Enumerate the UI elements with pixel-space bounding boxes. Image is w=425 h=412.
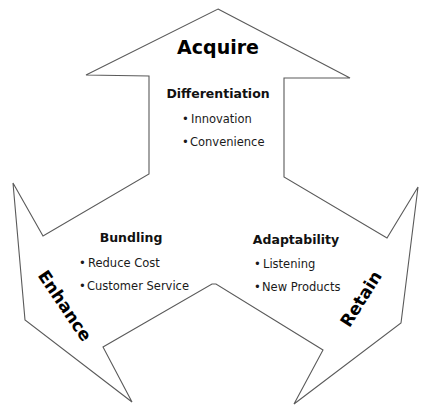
section-title-adaptability: Adaptability [253, 232, 339, 247]
bullet-glyph: • [182, 112, 189, 126]
section-title-differentiation: Differentiation [166, 86, 269, 101]
bullet-glyph: • [79, 256, 86, 270]
three-arrow-outline [13, 9, 418, 404]
section-title-bundling: Bundling [100, 230, 163, 245]
bullet-glyph: • [79, 279, 86, 293]
bullet-item-new-products: New Products [262, 280, 340, 294]
arrow-label-acquire: Acquire [177, 36, 259, 58]
bullet-item-reduce-cost: Reduce Cost [88, 256, 160, 270]
bullet-glyph: • [254, 280, 261, 294]
bullet-item-innovation: Innovation [191, 112, 252, 126]
bullet-item-convenience: Convenience [190, 135, 264, 149]
bullet-glyph: • [182, 135, 189, 149]
three-arrow-diagram: Acquire Differentiation • Innovation • C… [0, 0, 425, 412]
bullet-glyph: • [254, 257, 261, 271]
bullet-item-customer-service: Customer Service [87, 279, 189, 293]
bullet-item-listening: Listening [263, 257, 315, 271]
